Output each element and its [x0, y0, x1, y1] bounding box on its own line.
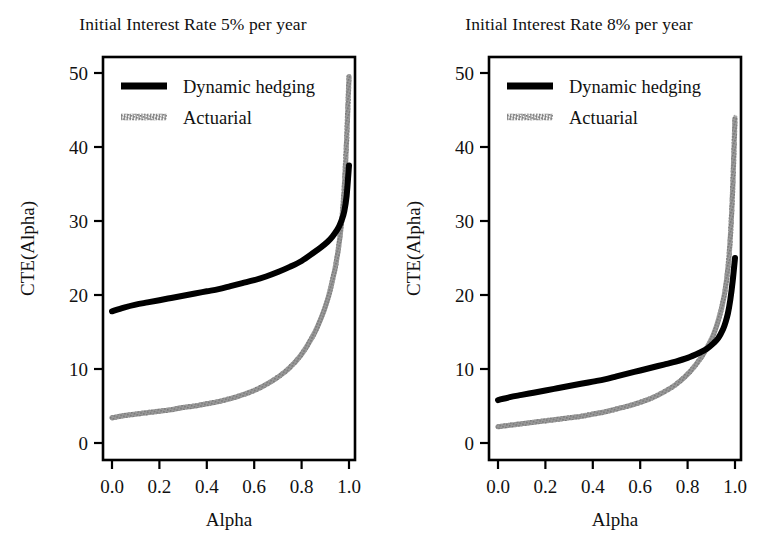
x-axis-title: Alpha [592, 509, 639, 530]
y-tick-label: 50 [455, 63, 474, 84]
y-tick-label: 50 [69, 63, 88, 84]
x-tick-label: 0.8 [290, 476, 314, 497]
y-tick-label: 0 [465, 433, 475, 454]
y-tick-label: 10 [455, 359, 474, 380]
x-tick-label: 0.8 [676, 476, 700, 497]
x-tick-label: 1.0 [723, 476, 747, 497]
figure-root: Initial Interest Rate 5% per year 010203… [0, 0, 773, 554]
plot-area-8pct: 010203040500.00.20.40.60.81.0AlphaCTE(Al… [386, 0, 772, 554]
x-tick-label: 0.2 [534, 476, 558, 497]
y-tick-label: 20 [455, 285, 474, 306]
y-axis-title: CTE(Alpha) [17, 201, 39, 296]
y-tick-label: 40 [69, 137, 88, 158]
y-tick-label: 40 [455, 137, 474, 158]
y-tick-label: 30 [455, 211, 474, 232]
legend-label-dynamic-hedging: Dynamic hedging [569, 77, 701, 97]
x-tick-label: 0.0 [486, 476, 510, 497]
series-group [498, 117, 735, 426]
series-line-actuarial [498, 117, 735, 426]
legend: Dynamic hedgingActuarial [121, 77, 315, 128]
legend-label-dynamic-hedging: Dynamic hedging [183, 77, 315, 97]
legend-label-actuarial: Actuarial [183, 108, 252, 128]
x-tick-label: 0.2 [148, 476, 172, 497]
y-tick-label: 10 [69, 359, 88, 380]
chart-panel-8pct: Initial Interest Rate 8% per year 010203… [386, 0, 772, 554]
series-line-dynamic-hedging [112, 166, 349, 312]
chart-panel-5pct: Initial Interest Rate 5% per year 010203… [0, 0, 386, 554]
x-tick-label: 0.4 [195, 476, 219, 497]
series-line-dynamic-hedging [498, 258, 735, 400]
x-tick-label: 0.0 [100, 476, 124, 497]
y-axis-title: CTE(Alpha) [403, 201, 425, 296]
series-line-actuarial-texture [498, 117, 735, 426]
x-tick-label: 0.4 [581, 476, 605, 497]
legend: Dynamic hedgingActuarial [507, 77, 701, 128]
x-tick-label: 0.6 [628, 476, 652, 497]
y-tick-label: 30 [69, 211, 88, 232]
x-tick-label: 0.6 [242, 476, 266, 497]
y-tick-label: 20 [69, 285, 88, 306]
y-tick-label: 0 [79, 433, 89, 454]
x-axis-title: Alpha [206, 509, 253, 530]
plot-area-5pct: 010203040500.00.20.40.60.81.0AlphaCTE(Al… [0, 0, 386, 554]
legend-label-actuarial: Actuarial [569, 108, 638, 128]
x-tick-label: 1.0 [337, 476, 361, 497]
